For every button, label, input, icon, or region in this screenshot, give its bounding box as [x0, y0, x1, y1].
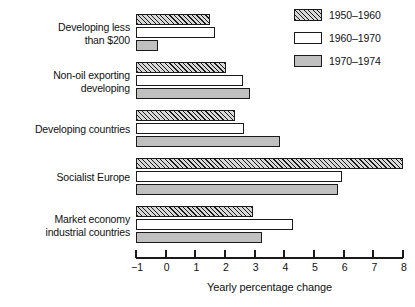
bar — [136, 40, 158, 51]
x-axis-title: Yearly percentage change — [136, 281, 403, 293]
bar — [136, 232, 262, 243]
x-axis-tick-label: 0 — [155, 261, 179, 274]
category-label: Developing less than $200 — [58, 21, 130, 46]
bar — [136, 62, 226, 73]
bar — [136, 184, 338, 195]
x-axis-tick — [194, 250, 196, 258]
x-axis-tick — [402, 250, 404, 258]
x-axis-tick — [313, 250, 315, 258]
bar-group: Developing less than $200 — [0, 14, 415, 53]
bar-group: Developing countries — [0, 110, 415, 149]
bar — [136, 75, 243, 86]
bar — [136, 219, 293, 230]
x-axis-tick-label: 2 — [214, 261, 238, 274]
bar-group: Socialist Europe — [0, 158, 415, 197]
x-axis-tick — [224, 250, 226, 258]
bar — [136, 136, 280, 147]
bar-group: Non-oil exporting developing — [0, 62, 415, 101]
x-axis-tick-label: 3 — [244, 261, 268, 274]
bar — [136, 88, 250, 99]
bar-group: Market economy industrial countries — [0, 206, 415, 245]
category-label: Socialist Europe — [57, 171, 130, 184]
x-axis-tick-label: 5 — [303, 261, 327, 274]
bar — [136, 171, 342, 182]
x-axis-tick-label: −1 — [125, 261, 149, 274]
bar-chart-figure: 1950–19601960–19701970–1974 Developing l… — [0, 0, 415, 307]
category-label: Developing countries — [35, 123, 130, 136]
x-axis-tick — [343, 250, 345, 258]
x-axis-tick — [135, 250, 137, 258]
bar — [136, 110, 235, 121]
x-axis-tick — [254, 250, 256, 258]
x-axis-tick-label: 7 — [362, 261, 386, 274]
x-axis-tick — [283, 250, 285, 258]
x-axis-line — [136, 257, 403, 259]
x-axis-tick — [372, 250, 374, 258]
bar — [136, 158, 403, 169]
category-label: Non-oil exporting developing — [53, 69, 130, 94]
bar — [136, 206, 253, 217]
x-axis-tick-label: 1 — [184, 261, 208, 274]
bar — [136, 27, 215, 38]
x-axis-tick-label: 6 — [333, 261, 357, 274]
x-axis-tick — [165, 250, 167, 258]
x-axis-tick-label: 8 — [392, 261, 415, 274]
category-label: Market economy industrial countries — [45, 213, 130, 238]
bar — [136, 14, 210, 25]
x-axis-tick-label: 4 — [273, 261, 297, 274]
bar — [136, 123, 244, 134]
